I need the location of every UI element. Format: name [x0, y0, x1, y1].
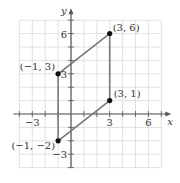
plot-svg: x y −33663−3(3, 6)(3, 1)(−1, −2)(−1, 3) — [0, 0, 180, 183]
x-axis-label: x — [167, 116, 173, 127]
vertex-label: (3, 1) — [114, 88, 141, 99]
vertex-label: (3, 6) — [113, 22, 140, 33]
vertex-point — [107, 98, 112, 103]
vertex-point — [107, 31, 112, 36]
y-axis-label: y — [60, 5, 67, 16]
vertex-point — [56, 138, 61, 143]
vertex-label: (−1, 3) — [20, 61, 55, 72]
labels: x y −33663−3(3, 6)(3, 1)(−1, −2)(−1, 3) — [11, 5, 173, 160]
y-axis-arrow-icon — [69, 8, 74, 14]
y-tick-label: −3 — [52, 149, 67, 160]
x-tick-label: −3 — [25, 117, 40, 128]
x-tick-label: 3 — [107, 117, 113, 128]
x-tick-label: 6 — [145, 117, 151, 128]
coordinate-plane-figure: x y −33663−3(3, 6)(3, 1)(−1, −2)(−1, 3) — [0, 0, 180, 183]
y-tick-label: 6 — [61, 29, 67, 40]
y-tick-label: 3 — [61, 69, 67, 80]
vertex-label: (−1, −2) — [11, 140, 55, 151]
